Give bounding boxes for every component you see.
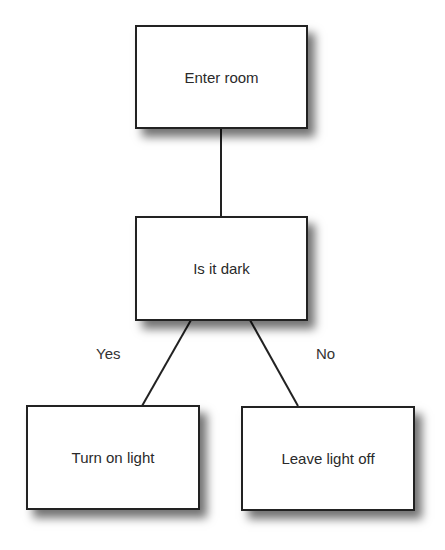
edge-yes — [142, 320, 191, 406]
node-enter-room: Enter room — [135, 25, 308, 129]
node-is-it-dark-label: Is it dark — [193, 260, 250, 277]
node-is-it-dark: Is it dark — [135, 216, 308, 321]
edge-no — [250, 320, 298, 406]
node-leave-light-off-label: Leave light off — [281, 450, 374, 467]
node-turn-on-light: Turn on light — [26, 405, 200, 510]
node-leave-light-off: Leave light off — [241, 406, 415, 511]
edge-no-label: No — [316, 345, 335, 362]
node-enter-room-label: Enter room — [184, 69, 258, 86]
edge-yes-label: Yes — [96, 345, 120, 362]
node-turn-on-light-label: Turn on light — [72, 449, 155, 466]
